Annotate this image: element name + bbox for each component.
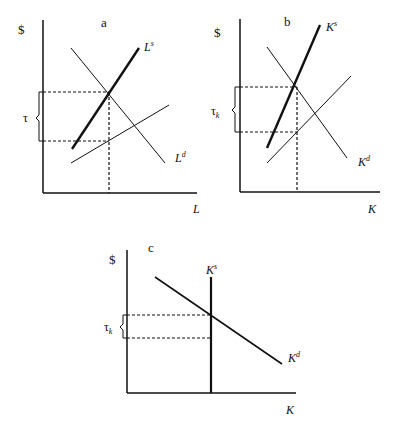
supply-label: Ks	[325, 19, 337, 34]
x-axis-label: K	[367, 202, 377, 216]
supply-curve-after-tax	[72, 48, 139, 149]
demand-label: Kd	[357, 154, 371, 169]
panel-label: a	[101, 15, 107, 30]
y-axis-label: $	[214, 25, 221, 40]
tax-label: τk	[104, 320, 113, 336]
panel-c: $ c K τk Ks Kd	[104, 240, 301, 417]
supply-curve-after-tax	[267, 25, 320, 148]
x-axis-label: K	[285, 403, 295, 417]
tax-brace	[232, 87, 240, 132]
demand-curve	[155, 277, 282, 364]
demand-label: Kd	[287, 350, 301, 365]
tax-brace	[36, 92, 43, 141]
panel-label: c	[148, 240, 154, 255]
demand-label: Ld	[174, 150, 187, 165]
tax-incidence-diagrams: $ a L τ Ls Ld $ b K τk	[0, 0, 399, 422]
tax-brace	[120, 315, 127, 338]
supply-label: Ks	[205, 262, 217, 277]
panel-label: b	[284, 14, 291, 29]
demand-curve	[267, 47, 347, 158]
panel-a: $ a L τ Ls Ld	[18, 15, 200, 216]
tax-label: τk	[211, 104, 220, 120]
supply-curve-before-tax	[71, 105, 169, 163]
tax-label: τ	[23, 111, 28, 125]
supply-label: Ls	[143, 39, 154, 54]
y-axis-label: $	[18, 22, 25, 37]
y-axis-label: $	[109, 252, 116, 267]
x-axis-label: L	[192, 202, 200, 216]
panel-b: $ b K τk Ks Kd	[211, 14, 380, 216]
demand-curve	[71, 48, 165, 163]
